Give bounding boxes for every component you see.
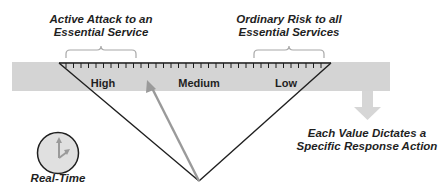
level-medium-label: Medium	[174, 77, 224, 89]
caption-line: Active Attack to an	[46, 13, 156, 26]
caption-line: Each Value Dictates a	[296, 127, 438, 140]
response-action-caption: Each Value Dictates a Specific Response …	[296, 127, 438, 153]
caption-line: Essential Services	[234, 26, 344, 39]
gauge-needle-icon	[146, 80, 199, 181]
caption-line: Essential Service	[46, 26, 156, 39]
curly-brace-icon	[254, 46, 324, 58]
ordinary-risk-caption: Ordinary Risk to all Essential Services	[234, 13, 344, 39]
level-low-label: Low	[268, 77, 304, 89]
real-time-caption: Real-Time	[28, 172, 88, 185]
level-high-label: High	[83, 77, 123, 89]
clock-icon	[38, 133, 79, 174]
caption-line: Ordinary Risk to all	[234, 13, 344, 26]
active-attack-caption: Active Attack to an Essential Service	[46, 13, 156, 39]
arrow-down-icon	[354, 91, 381, 120]
curly-brace-icon	[66, 46, 136, 58]
caption-line: Specific Response Action	[296, 140, 438, 153]
